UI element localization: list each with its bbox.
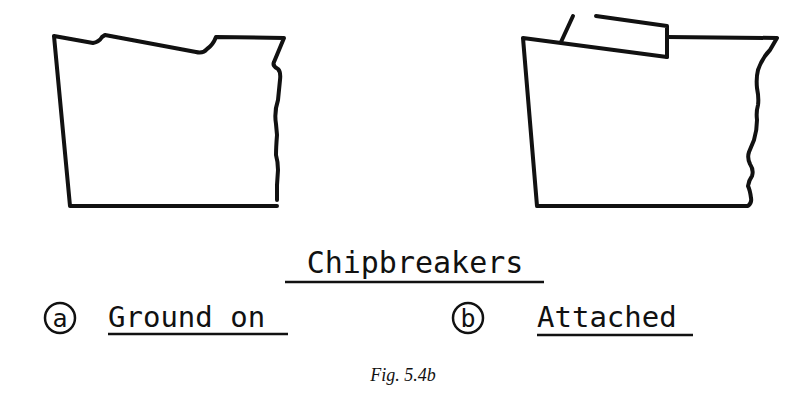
chipbreakers-diagram: Chipbreakers a Ground on b Attached Fig.… — [0, 0, 793, 393]
figure-caption: Fig. 5.4b — [369, 365, 436, 385]
marker-a: a — [52, 304, 67, 333]
panel-a-label: a Ground on — [45, 300, 288, 334]
panel-a-text: Ground on — [108, 300, 265, 334]
panel-b-label: b Attached — [453, 300, 693, 335]
marker-b: b — [460, 304, 475, 333]
tool-profile-attached — [523, 37, 777, 206]
tool-profile-ground-on — [54, 35, 284, 206]
panel-b-text: Attached — [537, 300, 677, 334]
figure-title: Chipbreakers — [307, 245, 524, 280]
